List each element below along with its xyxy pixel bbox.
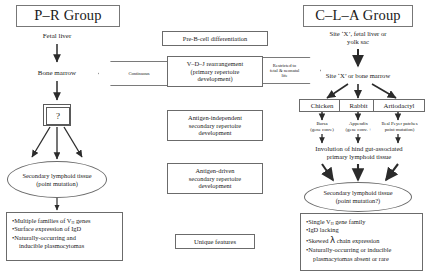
left-feature-1: •Multiple families of VH genes <box>12 217 117 225</box>
stage-ag-driven-line3: development <box>171 182 259 190</box>
left-feature-3-cont: inducible plasmocytomas <box>12 242 117 250</box>
left-features-box: •Multiple families of VH genes •Surface … <box>6 212 123 261</box>
left-secondary-line1: Secondary lymphoid tissue <box>22 172 91 180</box>
stage-pre-b-label: Pre-B-cell differentiation <box>166 35 264 43</box>
right-feature-4: •Naturally-occurring or inducible <box>306 246 417 254</box>
node-site-x-bm-label: Site ‘X’ or bone marrow <box>326 72 390 79</box>
node-site-x-fetal-liver: Site ‘X’, fetal liver or yolk sac <box>295 30 421 45</box>
stage-ag-indep-line1: Antigen-independent <box>171 114 259 122</box>
right-group-title: C–L–A Group <box>303 5 413 27</box>
left-feature-3: •Naturally-occurring and <box>12 234 117 242</box>
node-bone-marrow-label: Bone marrow <box>38 69 76 77</box>
left-secondary-lymphoid-tissue: Secondary lymphoid tissue (point mutatio… <box>7 161 107 198</box>
node-question-label: ? <box>46 107 70 125</box>
node-involution-line1: Involution of hind gut-associated <box>292 145 426 153</box>
left-group-title-text: P–R Group <box>34 7 101 24</box>
node-involution: Involution of hind gut-associated primar… <box>292 145 426 160</box>
left-secondary-line2: (point mutation) <box>22 180 91 188</box>
stage-vdj-line3: development) <box>171 75 259 83</box>
callout-continuous: Continuous <box>98 61 170 86</box>
species-artiodactyl-label: Artiodactyl <box>377 102 421 110</box>
stage-ag-driven-line2: secondary repertoire <box>171 175 259 183</box>
species-chicken-label: Chicken <box>303 102 341 110</box>
left-feature-2: •Surface expression of IgD <box>12 225 117 233</box>
stage-ag-driven-line1: Antigen-driven <box>171 167 259 175</box>
stage-antigen-independent: Antigen-independent secondary repertoire… <box>167 110 263 141</box>
right-secondary-line1: Secondary lymphoid tissue <box>323 189 392 197</box>
organ-ileal-mechanism: point mutation) <box>372 127 427 133</box>
right-feature-3: •Skewed λ chain expression <box>306 235 417 246</box>
callout-restricted: Restricted to fetal & neonatal life <box>258 57 321 84</box>
left-group-title: P–R Group <box>16 5 120 27</box>
stage-unique-label: Unique features <box>179 238 251 246</box>
node-involution-line2: primary lymphoid tissue <box>292 153 426 161</box>
organ-ileal-peyer-patches: Ileal Peyer patches point mutation) <box>372 121 427 132</box>
node-site-x-bone-marrow: Site ‘X’ or bone marrow <box>295 72 421 80</box>
callout-continuous-text: Continuous <box>128 71 149 76</box>
stage-unique-features: Unique features <box>175 234 255 249</box>
right-feature-1: •Single VH gene family <box>306 218 417 226</box>
node-site-x-line1: Site ‘X’, fetal liver or <box>295 30 421 38</box>
stage-ag-indep-line2: secondary repertoire <box>171 122 259 130</box>
stage-pre-b-cell-differentiation: Pre-B-cell differentiation <box>162 31 268 46</box>
stage-antigen-driven: Antigen-driven secondary repertoire deve… <box>167 163 263 194</box>
right-feature-2: •IgD lacking <box>306 226 417 234</box>
stage-ag-indep-line3: development <box>171 129 259 137</box>
node-fetal-liver: Fetal liver <box>22 32 92 40</box>
stage-vdj-line1: V–D–J rearrangement <box>171 60 259 68</box>
species-rabbit-label: Rabbit <box>343 102 374 110</box>
right-feature-4-cont: plasmacytomas absent or rare <box>306 255 417 263</box>
node-site-x-line2: yolk sac <box>295 38 421 46</box>
right-secondary-lymphoid-tissue: Secondary lymphoid tissue (point mutatio… <box>304 182 412 212</box>
node-question-box: ? <box>43 104 71 126</box>
stage-vdj-rearrangement: V–D–J rearrangement (primary repertoire … <box>167 56 263 87</box>
species-artiodactyl: Artiodactyl <box>373 99 425 112</box>
node-bone-marrow: Bone marrow <box>22 69 92 77</box>
stage-vdj-line2: (primary repertoire <box>171 68 259 76</box>
diagram-canvas: P–R Group Fetal liver Bone marrow ? Seco… <box>0 0 427 278</box>
right-group-title-text: C–L–A Group <box>315 7 401 24</box>
node-fetal-liver-label: Fetal liver <box>43 32 72 40</box>
right-secondary-line2: (point mutation?) <box>323 197 392 205</box>
right-features-box: •Single VH gene family •IgD lacking •Ske… <box>300 213 423 271</box>
